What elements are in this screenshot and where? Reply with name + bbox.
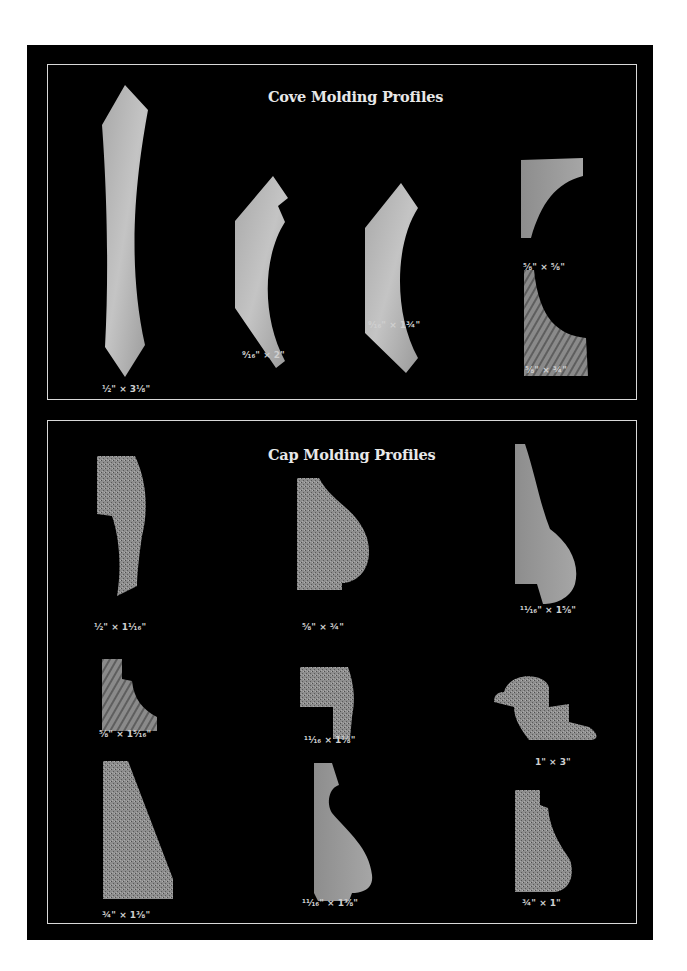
cap-profile-5-label: ¹¹⁄₁₆ × 1⅛" xyxy=(304,735,355,745)
cap-profile-7 xyxy=(103,761,183,901)
cap-profile-3-label: ¹¹⁄₁₆" × 1⅝" xyxy=(520,605,576,615)
cove-profile-3-label: ⁹⁄₁₆" × 1¾" xyxy=(368,320,420,330)
cap-profile-1 xyxy=(97,456,147,596)
cove-profile-2 xyxy=(233,176,295,372)
cap-profile-3 xyxy=(515,444,595,604)
cap-profile-8-label: ¹¹⁄₁₆" × 1⅜" xyxy=(302,898,358,908)
cove-profile-4 xyxy=(521,158,586,243)
cove-profile-5-label: ⅝" × ¾" xyxy=(525,365,567,375)
cap-profile-8 xyxy=(314,763,384,903)
cove-profile-2-label: ⁹⁄₁₆" × 2" xyxy=(242,350,285,360)
cap-profile-2 xyxy=(297,478,377,593)
cap-profile-4 xyxy=(102,659,162,734)
cap-section-title: Cap Molding Profiles xyxy=(268,446,436,463)
cap-profile-6 xyxy=(494,672,599,742)
cove-section-title: Cove Molding Profiles xyxy=(268,88,443,105)
cap-profile-5 xyxy=(300,667,360,742)
cap-profile-6-label: 1" × 3" xyxy=(535,757,571,767)
cap-profile-4-label: ⅝" × 1⁵⁄₁₆" xyxy=(99,729,151,739)
cove-profile-1-label: ½" × 3⅛" xyxy=(102,384,150,394)
cove-profile-5 xyxy=(524,270,590,378)
cap-profile-9 xyxy=(515,790,590,898)
cap-profile-7-label: ¾" × 1⅜" xyxy=(102,910,150,920)
cap-profile-1-label: ½" × 1¹⁄₁₆" xyxy=(94,622,146,632)
cove-profile-1 xyxy=(100,85,160,380)
cap-profile-2-label: ⅝" × ¾" xyxy=(302,622,344,632)
cap-profile-9-label: ¾" × 1" xyxy=(522,898,561,908)
cove-profile-3 xyxy=(363,183,425,378)
